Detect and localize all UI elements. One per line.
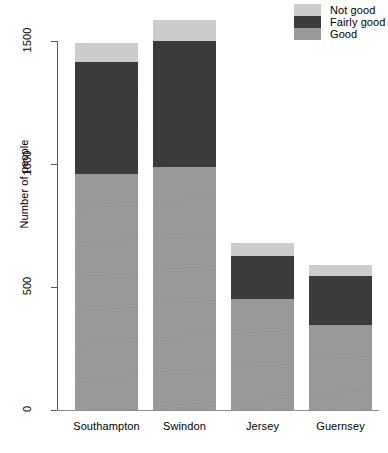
bar-segment-not-good [153, 20, 216, 41]
y-tick-label: 1500 [21, 20, 33, 60]
bar-segment-not-good [231, 243, 294, 256]
bar-jersey [231, 0, 294, 453]
bar-southampton [75, 0, 138, 453]
y-tick-mark [51, 41, 57, 42]
y-tick-label: 0 [21, 389, 33, 429]
legend-item: Good [294, 28, 386, 40]
legend-swatch-good [294, 28, 321, 40]
bar-segment-good [75, 174, 138, 410]
bar-segment-fairly-good [231, 256, 294, 299]
bar-swindon [153, 0, 216, 453]
y-tick-label: 1000 [21, 143, 33, 183]
bar-segment-good [231, 299, 294, 410]
legend-label: Good [330, 28, 357, 40]
y-axis-line [57, 41, 58, 411]
x-tick-label-guernsey: Guernsey [291, 420, 388, 432]
bar-segment-good [309, 325, 372, 410]
bar-segment-not-good [75, 43, 138, 62]
stacked-bar-chart: Number of people 050010001500 Southampto… [0, 0, 388, 453]
bar-segment-fairly-good [153, 41, 216, 167]
y-tick-mark [51, 164, 57, 165]
legend-label: Fairly good [330, 16, 386, 28]
bar-segment-fairly-good [75, 62, 138, 174]
legend-item: Fairly good [294, 16, 386, 28]
y-tick-mark [51, 287, 57, 288]
legend: Not goodFairly goodGood [294, 4, 386, 40]
legend-item: Not good [294, 4, 386, 16]
y-tick-label: 500 [21, 266, 33, 306]
legend-swatch-fairly-good [294, 16, 321, 28]
y-axis-title: Number of people [18, 104, 30, 264]
bar-segment-not-good [309, 265, 372, 276]
legend-label: Not good [330, 4, 375, 16]
bar-guernsey [309, 0, 372, 453]
legend-swatch-not-good [294, 4, 321, 16]
bar-segment-fairly-good [309, 276, 372, 325]
bar-segment-good [153, 167, 216, 410]
